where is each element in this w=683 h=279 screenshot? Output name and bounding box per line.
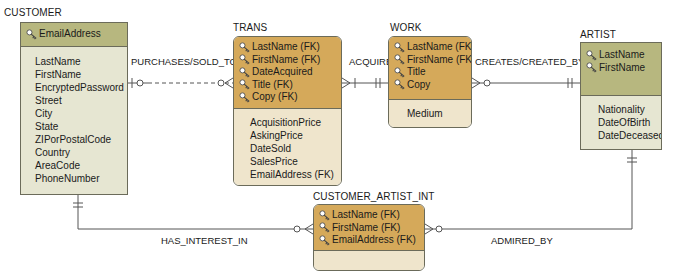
attribute: EncryptedPassword: [35, 81, 127, 94]
key-attribute: Title (FK): [238, 79, 337, 92]
key-icon: [238, 92, 252, 103]
relationship-label-admired-by: ADMIRED_BY: [491, 235, 553, 246]
attribute: AreaCode: [35, 159, 127, 172]
key-attribute: Copy: [393, 79, 467, 92]
key-attribute: LastName (FK): [318, 209, 420, 222]
trans-zero-circle: [218, 80, 224, 86]
key-attribute: LastName (FK): [238, 41, 337, 54]
key-attribute: EmailAddress (FK): [318, 234, 420, 247]
entity-customer-artist-int[interactable]: LastName (FK) FirstName (FK) EmailAddres…: [313, 204, 425, 271]
entity-artist[interactable]: LastName FirstName Nationality DateOfBir…: [580, 42, 662, 150]
key-icon: [318, 222, 332, 233]
relationship-label-purchases: PURCHASES/SOLD_TO: [131, 56, 237, 67]
purchases-zero-circle: [137, 80, 143, 86]
key-icon: [318, 235, 332, 246]
key-icon: [238, 79, 252, 90]
artist-key-section: LastName FirstName: [581, 43, 661, 96]
key-icon: [393, 54, 407, 65]
key-attribute: LastName: [585, 49, 657, 62]
key-attribute: Copy (FK): [238, 91, 337, 104]
attribute: Medium: [407, 107, 471, 120]
key-icon: [393, 67, 407, 78]
customer-artist-int-key-section: LastName (FK) FirstName (FK) EmailAddres…: [314, 205, 424, 251]
artist-attribute-section: Nationality DateOfBirth DateDeceased: [581, 96, 661, 150]
key-icon: [238, 42, 252, 53]
key-attribute: LastName (FK): [393, 41, 467, 54]
key-attribute: DateAcquired: [238, 66, 337, 79]
attribute: SalesPrice: [250, 155, 341, 168]
key-icon: [585, 50, 599, 61]
relationship-label-creates: CREATES/CREATED_BY: [475, 56, 584, 67]
attribute: AcquisitionPrice: [250, 116, 341, 129]
has-interest-line: [78, 195, 313, 229]
attribute: DateOfBirth: [598, 116, 661, 129]
work-attribute-section: Medium: [389, 100, 471, 128]
entity-title-artist: ARTIST: [580, 29, 616, 40]
admired-by-line: [425, 150, 632, 229]
key-icon: [25, 29, 39, 40]
customer-attribute-section: LastName FirstName EncryptedPassword Str…: [21, 47, 127, 194]
attribute: Country: [35, 146, 127, 159]
key-attribute: FirstName (FK): [318, 222, 420, 235]
attribute: Street: [35, 94, 127, 107]
key-icon: [238, 67, 252, 78]
attribute: State: [35, 120, 127, 133]
key-icon: [393, 42, 407, 53]
key-attribute: FirstName (FK): [238, 54, 337, 67]
trans-attribute-section: AcquisitionPrice AskingPrice DateSold Sa…: [234, 109, 341, 186]
customer-key-section: EmailAddress: [21, 23, 127, 47]
trans-key-section: LastName (FK) FirstName (FK) DateAcquire…: [234, 37, 341, 109]
attribute: Nationality: [598, 103, 661, 116]
attribute: PhoneNumber: [35, 172, 127, 185]
attribute: DateDeceased: [598, 129, 661, 142]
attribute: AskingPrice: [250, 129, 341, 142]
key-icon: [318, 210, 332, 221]
entity-trans[interactable]: LastName (FK) FirstName (FK) DateAcquire…: [233, 36, 342, 186]
customer-artist-int-attribute-section: [314, 251, 424, 271]
attribute: FirstName: [35, 68, 127, 81]
entity-title-customer: CUSTOMER: [4, 7, 62, 18]
relationship-label-has-interest: HAS_INTEREST_IN: [161, 235, 248, 246]
key-attribute: EmailAddress: [25, 28, 123, 41]
key-attribute: FirstName (FK): [393, 54, 467, 67]
attribute: LastName: [35, 55, 127, 68]
entity-title-work: WORK: [390, 22, 422, 33]
key-icon: [238, 54, 252, 65]
entity-title-customer-artist-int: CUSTOMER_ARTIST_INT: [313, 191, 435, 202]
entity-title-trans: TRANS: [233, 22, 267, 33]
key-icon: [585, 62, 599, 73]
work-key-section: LastName (FK) FirstName (FK) Title Copy: [389, 37, 471, 100]
key-attribute: Title: [393, 66, 467, 79]
attribute: ZIPorPostalCode: [35, 133, 127, 146]
attribute: EmailAddress (FK): [250, 168, 341, 181]
key-icon: [393, 79, 407, 90]
attribute: City: [35, 107, 127, 120]
attribute: DateSold: [250, 142, 341, 155]
key-attribute: FirstName: [585, 62, 657, 75]
entity-work[interactable]: LastName (FK) FirstName (FK) Title Copy …: [388, 36, 472, 128]
entity-customer[interactable]: EmailAddress LastName FirstName Encrypte…: [20, 22, 128, 195]
